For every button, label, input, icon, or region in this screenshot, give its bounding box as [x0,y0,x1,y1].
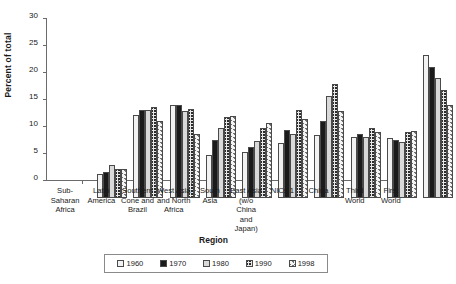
bar-group [384,36,420,198]
x-axis-tick [373,180,409,185]
y-axis-tick-label: 30 [29,12,38,20]
x-axis-tick [47,180,83,185]
bar-group [94,36,130,198]
bar-set [133,36,163,198]
x-axis-category-label: West Asia and North Africa [156,186,192,234]
bar-group [203,36,239,198]
y-axis-tick-label: 0 [34,174,38,182]
legend-item[interactable]: 1960 [117,260,143,268]
bar-group [420,36,456,198]
legend-item[interactable]: 1980 [203,260,229,268]
legend-label: 1980 [212,260,229,268]
x-axis-tick [83,180,119,185]
bar-set [278,36,308,198]
x-axis-category-label: Third World [337,186,373,234]
x-axis-tick [192,180,228,185]
legend-swatch-icon [289,260,296,267]
bar-set [242,36,272,198]
legend-item[interactable]: 1990 [246,260,272,268]
legend-item[interactable]: 1998 [289,260,315,268]
x-axis-category-label: China [300,186,336,234]
bar-set [351,36,381,198]
x-axis-tick [156,180,192,185]
legend-item[interactable]: 1970 [160,260,186,268]
bar-group [239,36,275,198]
bar [447,105,453,198]
bar-set [170,36,200,198]
x-axis-category-label: Southern Cone and Brazil [119,186,155,234]
bar-groups [94,36,456,198]
bar [411,131,417,199]
chart-legend: 19601970198019901998 [104,254,328,273]
plot-area [47,18,409,180]
y-axis-tick-label: 5 [34,147,38,155]
x-axis-category-label: East Asia (w/o China and Japan) [228,186,264,234]
x-axis-tick [119,180,155,185]
bar-group [311,36,347,198]
x-axis-tick [300,180,336,185]
x-axis-tick [264,180,300,185]
bar-group [347,36,383,198]
y-axis-title: Percent of total [3,5,13,125]
bar-set [206,36,236,198]
x-axis-tick [228,180,264,185]
legend-label: 1970 [169,260,186,268]
bar-set [387,36,417,198]
bar-group [166,36,202,198]
legend-swatch-icon [246,260,253,267]
x-axis-category-labels: Sub- Saharan AfricaLatin AmericaSouthern… [47,186,409,234]
legend-swatch-icon [117,260,124,267]
x-axis-title: Region [0,235,427,245]
bar-set [97,36,127,198]
bar-group [275,36,311,198]
y-axis-tick-label: 15 [29,93,38,101]
y-axis-tick-label: 10 [29,120,38,128]
bar-group [130,36,166,198]
bar-set [423,36,453,198]
y-axis-tick-label: 25 [29,39,38,47]
x-axis-ticks [47,180,409,185]
x-axis-category-label: Sub- Saharan Africa [47,186,83,234]
legend-label: 1998 [298,260,315,268]
legend-swatch-icon [160,260,167,267]
legend-label: 1960 [126,260,143,268]
legend-label: 1990 [255,260,272,268]
bar-set [314,36,344,198]
y-axis-tick-label: 20 [29,66,38,74]
x-axis-category-label: First World [373,186,409,234]
legend-swatch-icon [203,260,210,267]
x-axis-category-label: South Asia [192,186,228,234]
x-axis-category-label: NICs 1 [264,186,300,234]
x-axis-tick [337,180,373,185]
x-axis-category-label: Latin America [83,186,119,234]
